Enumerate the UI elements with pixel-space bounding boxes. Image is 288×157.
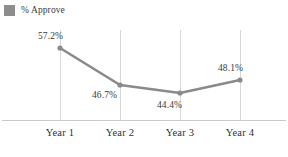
series-line-approve (60, 48, 240, 93)
data-point-year-1[interactable] (57, 45, 62, 50)
x-axis-labels: Year 1 Year 2 Year 3 Year 4 (0, 126, 288, 146)
x-label-year-4: Year 4 (226, 126, 254, 139)
data-point-year-3[interactable] (177, 90, 182, 95)
x-label-year-1: Year 1 (46, 126, 74, 139)
data-label-year-4: 48.1% (218, 63, 243, 74)
plot-area: 57.2% 46.7% 44.4% 48.1% (0, 22, 288, 122)
legend-label: % Approve (21, 5, 65, 16)
chart-legend: % Approve (4, 3, 65, 17)
legend-swatch-icon (4, 5, 15, 16)
approval-line-chart: % Approve 57.2% 46.7% (0, 0, 288, 157)
gridlines (61, 30, 241, 120)
data-point-year-2[interactable] (117, 82, 122, 87)
data-label-year-2: 46.7% (92, 90, 117, 101)
data-point-year-4[interactable] (237, 77, 242, 82)
data-label-year-1: 57.2% (38, 31, 63, 42)
x-label-year-2: Year 2 (106, 126, 134, 139)
data-label-year-3: 44.4% (157, 100, 182, 111)
x-label-year-3: Year 3 (166, 126, 194, 139)
